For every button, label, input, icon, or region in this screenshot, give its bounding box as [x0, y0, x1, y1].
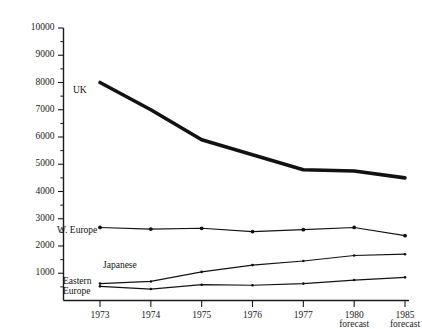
- data-point: [200, 226, 204, 230]
- x-axis-group: 197319741975197619771980forecast1985fore…: [64, 301, 421, 329]
- series-label-eastern-europe-line1: Eastern: [63, 276, 92, 286]
- y-axis-group: 1000090008000700060005000400030002000100…: [31, 22, 64, 300]
- x-tick-label: 1985: [396, 310, 415, 320]
- x-axis-tick-labels: 197319741975197619771980forecast1985fore…: [91, 310, 421, 329]
- x-tick-label: 1980: [345, 310, 364, 320]
- y-tick-label: 5000: [36, 158, 55, 168]
- x-axis-ticks: [100, 301, 405, 308]
- line-chart: 1000090008000700060005000400030002000100…: [0, 0, 422, 329]
- data-point: [403, 234, 407, 238]
- data-point: [302, 260, 305, 263]
- x-tick-label: 1975: [192, 310, 211, 320]
- y-tick-label: 4000: [36, 186, 55, 196]
- series-label-japanese: Japanese: [103, 260, 137, 270]
- series-line-uk: [100, 83, 405, 178]
- data-point: [200, 283, 203, 286]
- x-tick-label-sub: forecast: [339, 319, 369, 329]
- data-point: [301, 228, 305, 232]
- y-tick-label: 8000: [36, 77, 55, 87]
- data-point: [251, 264, 254, 267]
- data-point: [251, 284, 254, 287]
- y-tick-label: 10000: [31, 22, 55, 32]
- x-tick-label-sub: forecast: [390, 319, 420, 329]
- y-tick-label: 7000: [36, 104, 55, 114]
- y-axis-tick-labels: 1000090008000700060005000400030002000100…: [31, 22, 55, 277]
- data-point: [150, 288, 153, 291]
- data-point: [98, 226, 102, 230]
- y-tick-label: 9000: [36, 49, 55, 59]
- series-group: [98, 83, 407, 291]
- series-line-eastern-europe: [100, 277, 405, 289]
- y-axis-ticks: [58, 28, 64, 287]
- y-tick-label: 2000: [36, 240, 55, 250]
- x-tick-label: 1976: [243, 310, 262, 320]
- data-point: [404, 253, 407, 256]
- series-inline-labels: UKW. EuropeJapaneseEasternEurope: [57, 85, 137, 296]
- series-label-uk: UK: [73, 85, 87, 95]
- x-tick-label: 1977: [294, 310, 313, 320]
- chart-canvas: 1000090008000700060005000400030002000100…: [0, 0, 422, 329]
- data-point: [251, 230, 255, 234]
- data-point: [353, 254, 356, 257]
- series-line-japanese: [100, 254, 405, 283]
- data-point: [150, 280, 153, 283]
- data-point: [200, 271, 203, 274]
- data-point: [404, 276, 407, 279]
- data-point: [149, 227, 153, 231]
- data-point: [302, 282, 305, 285]
- x-tick-label: 1974: [141, 310, 160, 320]
- series-label-w-europe: W. Europe: [57, 225, 97, 235]
- data-point: [99, 285, 102, 288]
- series-label-eastern-europe-line2: Europe: [63, 286, 90, 296]
- data-point: [99, 282, 102, 285]
- data-point: [353, 279, 356, 282]
- y-tick-label: 1000: [36, 267, 55, 277]
- y-tick-label: 6000: [36, 131, 55, 141]
- x-tick-label: 1973: [91, 310, 110, 320]
- data-point: [352, 226, 356, 230]
- y-tick-label: 3000: [36, 213, 55, 223]
